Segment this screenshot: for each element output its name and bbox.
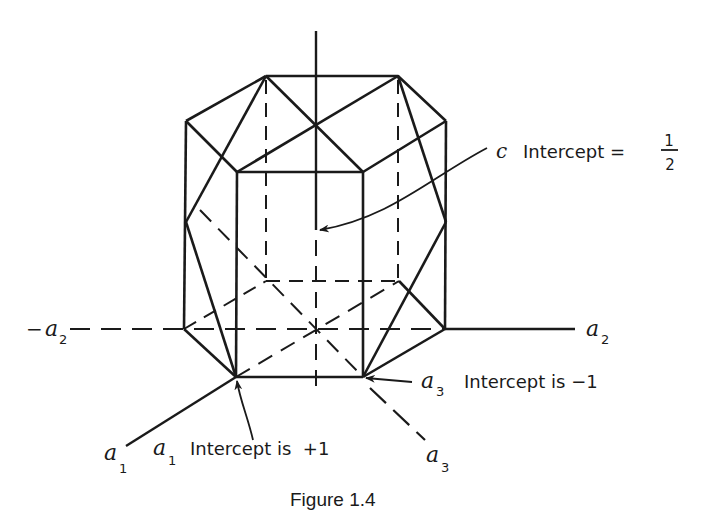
c-intercept-symbol: c [496,139,507,163]
a3-label: a [426,442,439,467]
crystal-diagram: c Intercept = 1 2 − a 2 a 2 a 3 Intercep… [0,0,701,515]
labels: c Intercept = 1 2 − a 2 a 2 a 3 Intercep… [26,132,678,510]
a1-label: a [104,440,117,465]
a1-sub: 1 [119,461,127,476]
neg-a2-sub: 2 [59,332,67,347]
a1-intercept-text: Intercept is +1 [190,438,329,459]
a1-intercept-arrow [237,381,253,440]
hidden-edges [184,80,399,329]
a2-label: a [586,316,599,341]
neg-a2-minus: − [26,317,43,341]
a3-intercept-sub: 3 [436,384,444,399]
a3-axis-dashed [200,210,363,377]
a3-axis-dashed-lower [370,388,425,440]
c-intercept-denominator: 2 [665,156,675,174]
a3-sub: 3 [441,460,449,475]
a1-axis-solid [126,377,236,446]
neg-a2-label: a [45,316,58,341]
c-intercept-arrow [320,148,487,230]
a3-intercept-arrow [366,378,412,382]
c-intercept-text: Intercept = [523,141,625,162]
a1-intercept-sub: 1 [168,453,176,468]
a3-intercept-text: Intercept is −1 [464,371,598,392]
a1-intercept-symbol: a [153,435,166,460]
a2-sub: 2 [601,332,609,347]
c-intercept-numerator: 1 [664,132,674,150]
a3-intercept-symbol: a [421,368,434,393]
figure-caption: Figure 1.4 [290,489,376,510]
